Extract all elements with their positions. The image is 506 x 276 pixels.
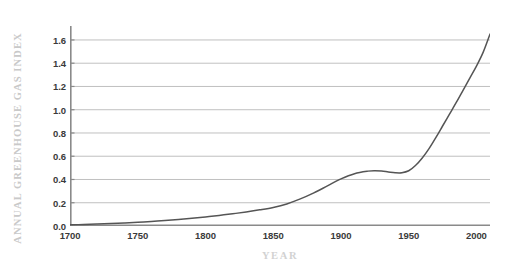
y-tick-label: 1.4 bbox=[32, 58, 66, 69]
y-tick-label: 0.8 bbox=[32, 127, 66, 138]
gridlines bbox=[70, 40, 490, 203]
x-tick-label: 1750 bbox=[108, 230, 168, 241]
x-tick-label: 1800 bbox=[175, 230, 235, 241]
x-axis-title: YEAR bbox=[70, 250, 490, 261]
y-tick-label: 1.0 bbox=[32, 104, 66, 115]
y-tick-label: 0.2 bbox=[32, 197, 66, 208]
chart-svg bbox=[70, 26, 490, 226]
chart-figure: ANNUAL GREENHOUSE GAS INDEX 0.00.20.40.6… bbox=[0, 0, 506, 276]
x-tick-label: 1850 bbox=[243, 230, 303, 241]
plot-area bbox=[70, 26, 490, 226]
x-tick-label: 2000 bbox=[446, 230, 506, 241]
y-tick-label: 0.6 bbox=[32, 151, 66, 162]
y-tick-label: 0.4 bbox=[32, 174, 66, 185]
y-axis-tick-labels: 0.00.20.40.60.81.01.21.41.6 bbox=[28, 26, 66, 226]
y-tick-label: 1.6 bbox=[32, 34, 66, 45]
x-tick-label: 1700 bbox=[40, 230, 100, 241]
y-tick-label: 1.2 bbox=[32, 81, 66, 92]
x-tick-label: 1950 bbox=[379, 230, 439, 241]
data-line-greenhouse-gas-index bbox=[70, 34, 490, 225]
x-tick-label: 1900 bbox=[311, 230, 371, 241]
x-axis-tick-labels: 1700175018001850190019502000 bbox=[70, 230, 490, 246]
